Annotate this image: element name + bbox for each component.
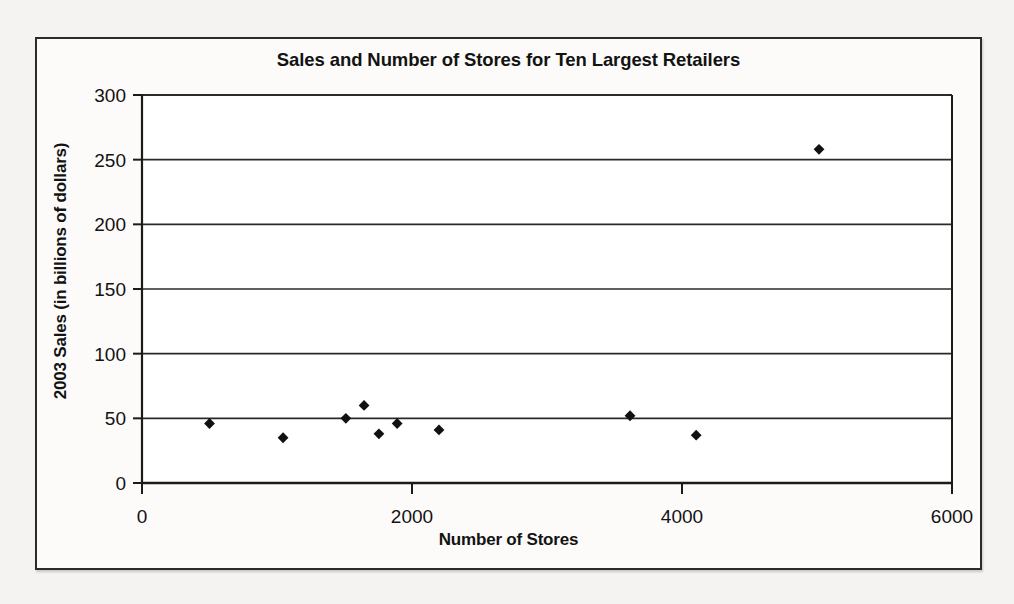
y-tick-label: 200: [94, 214, 126, 235]
y-axis-ticks: [133, 95, 142, 483]
y-tick-label: 50: [105, 408, 126, 429]
x-axis-tick-labels: 0200040006000: [137, 506, 973, 527]
y-tick-label: 250: [94, 150, 126, 171]
x-tick-label: 6000: [931, 506, 973, 527]
scatter-plot: 050100150200250300 0200040006000: [37, 39, 984, 572]
chart-figure-frame: Sales and Number of Stores for Ten Large…: [35, 37, 982, 570]
x-tick-label: 0: [137, 506, 148, 527]
y-axis-tick-labels: 050100150200250300: [94, 85, 126, 494]
x-axis-ticks: [142, 483, 952, 494]
y-tick-label: 100: [94, 344, 126, 365]
y-tick-label: 150: [94, 279, 126, 300]
y-tick-label: 0: [115, 473, 126, 494]
y-tick-label: 300: [94, 85, 126, 106]
x-tick-label: 4000: [661, 506, 703, 527]
x-tick-label: 2000: [391, 506, 433, 527]
